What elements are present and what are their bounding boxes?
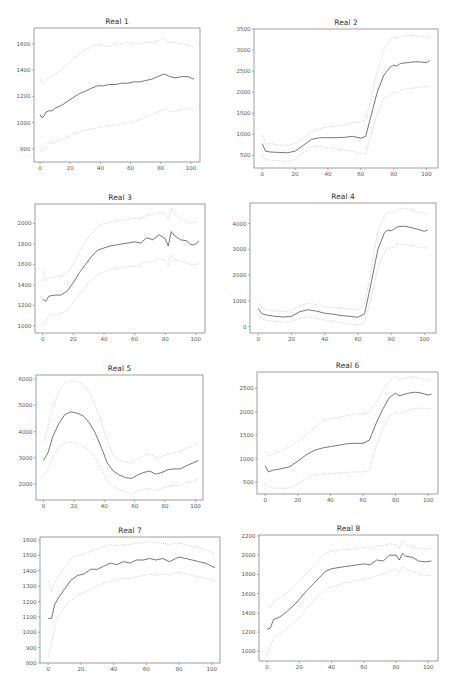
y-tick-label: 1400: [23, 568, 37, 574]
x-tick-label: 20: [288, 336, 295, 342]
y-tick-label: 6000: [19, 376, 33, 382]
x-tick-label: 80: [393, 664, 400, 670]
x-tick-label: 40: [321, 336, 328, 342]
y-tick-label: 4000: [19, 429, 33, 435]
y-tick-label: 1000: [242, 648, 256, 654]
y-tick-label: 1200: [242, 629, 256, 635]
y-tick-label: 1000: [233, 298, 247, 304]
y-tick-label: 2000: [18, 220, 32, 226]
axes-frame: [36, 375, 203, 500]
x-tick-label: 0: [38, 165, 42, 171]
x-tick-label: 60: [143, 666, 150, 672]
y-tick-label: 3500: [237, 26, 251, 32]
y-tick-label: 1600: [17, 41, 31, 47]
x-tick-label: 0: [42, 503, 46, 509]
axes-frame: [257, 372, 438, 494]
series-upper-line: [44, 380, 199, 463]
y-tick-label: 2000: [233, 272, 247, 278]
series-lower-line: [48, 572, 215, 657]
series-lower-line: [43, 255, 199, 326]
y-tick-label: 500: [243, 479, 254, 485]
chart-title: Real 2: [334, 18, 358, 27]
x-tick-label: 80: [157, 165, 164, 171]
chart-panel-5: Real 502040608010020003000400050006000: [19, 364, 204, 509]
y-tick-label: 3000: [233, 246, 247, 252]
x-tick-label: 20: [70, 336, 77, 342]
y-tick-label: 0: [243, 324, 247, 330]
y-tick-label: 1000: [240, 456, 254, 462]
x-tick-label: 60: [127, 165, 134, 171]
figure-grid: Real 10204060801008001000120014001600Rea…: [0, 0, 453, 684]
x-tick-label: 80: [162, 336, 169, 342]
series-lower-line: [40, 108, 194, 151]
y-tick-label: 1500: [237, 110, 251, 116]
x-tick-label: 0: [41, 336, 45, 342]
x-tick-label: 100: [191, 336, 202, 342]
axes-frame: [254, 29, 438, 168]
x-tick-label: 20: [77, 666, 84, 672]
series-mean-line: [44, 412, 199, 479]
y-tick-label: 1800: [18, 241, 32, 247]
series-lower-line: [267, 567, 431, 656]
series-mean-line: [40, 74, 194, 117]
y-tick-label: 1000: [18, 323, 32, 329]
series-lower-line: [262, 86, 430, 161]
y-tick-label: 1000: [17, 120, 31, 126]
x-tick-label: 0: [46, 666, 50, 672]
series-upper-line: [258, 208, 427, 312]
y-tick-label: 1200: [17, 93, 31, 99]
y-tick-label: 800: [20, 146, 31, 152]
y-tick-label: 2500: [237, 68, 251, 74]
axes-frame: [40, 537, 220, 663]
series-mean-line: [267, 553, 431, 629]
series-upper-line: [267, 540, 431, 608]
chart-title: Real 7: [118, 526, 142, 535]
y-tick-label: 2000: [237, 89, 251, 95]
x-tick-label: 0: [265, 664, 269, 670]
y-tick-label: 800: [26, 660, 37, 666]
y-tick-label: 4000: [233, 221, 247, 227]
y-tick-label: 1400: [18, 282, 32, 288]
x-tick-label: 0: [263, 497, 267, 503]
x-tick-label: 80: [162, 503, 169, 509]
y-tick-label: 3000: [237, 47, 251, 53]
x-tick-label: 100: [419, 336, 430, 342]
chart-title: Real 3: [108, 193, 132, 202]
series-lower-line: [258, 244, 427, 325]
chart-title: Real 4: [331, 192, 355, 201]
y-tick-label: 2000: [240, 409, 254, 415]
y-tick-label: 2000: [242, 552, 256, 558]
x-tick-label: 100: [423, 497, 434, 503]
y-tick-label: 900: [26, 645, 37, 651]
series-lower-line: [265, 408, 431, 488]
x-tick-label: 80: [390, 171, 397, 177]
axes-frame: [259, 535, 438, 661]
x-tick-label: 60: [131, 503, 138, 509]
y-tick-label: 1400: [242, 610, 256, 616]
axes-frame: [250, 203, 436, 333]
x-tick-label: 40: [110, 666, 117, 672]
y-tick-label: 1600: [18, 261, 32, 267]
chart-panel-1: Real 10204060801008001000120014001600: [17, 17, 201, 171]
chart-panel-7: Real 70204060801008009001000110012001300…: [23, 526, 221, 672]
x-tick-label: 0: [257, 336, 261, 342]
series-upper-line: [48, 542, 215, 591]
series-mean-line: [48, 557, 215, 618]
x-tick-label: 80: [176, 666, 183, 672]
x-tick-label: 20: [292, 171, 299, 177]
x-tick-label: 100: [190, 503, 201, 509]
x-tick-label: 20: [294, 497, 301, 503]
x-tick-label: 40: [97, 165, 104, 171]
x-tick-label: 20: [67, 165, 74, 171]
y-tick-label: 1500: [23, 552, 37, 558]
y-tick-label: 2200: [242, 533, 256, 539]
x-tick-label: 100: [421, 171, 432, 177]
chart-panel-6: Real 60204060801005001000150020002500: [240, 361, 439, 503]
y-tick-label: 3000: [19, 455, 33, 461]
y-tick-label: 1600: [242, 591, 256, 597]
series-mean-line: [43, 232, 199, 302]
x-tick-label: 100: [423, 664, 434, 670]
y-tick-label: 1800: [242, 571, 256, 577]
y-tick-label: 5000: [19, 402, 33, 408]
x-tick-label: 20: [296, 664, 303, 670]
